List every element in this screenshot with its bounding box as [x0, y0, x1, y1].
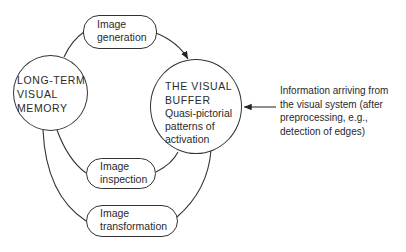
- buffer-title-line-2: BUFFER: [165, 93, 232, 107]
- inspection-line-1: Image: [100, 160, 147, 173]
- image-inspection-label: Image inspection: [100, 160, 147, 186]
- visual-buffer-label: THE VISUAL BUFFER Quasi-pictorial patter…: [165, 79, 232, 146]
- ltm-line-1: LONG-TERM: [17, 73, 85, 87]
- image-generation-label: Image generation: [97, 18, 147, 44]
- note-line-4: detection of edges): [280, 125, 388, 139]
- transformation-line-2: transformation: [100, 220, 167, 233]
- buffer-desc-line-3: activation: [165, 133, 232, 146]
- buffer-title-line-1: THE VISUAL: [165, 79, 232, 93]
- long-term-visual-memory-label: LONG-TERM VISUAL MEMORY: [17, 73, 85, 115]
- transformation-line-1: Image: [100, 207, 167, 220]
- ltm-line-3: MEMORY: [17, 101, 85, 115]
- note-line-3: preprocessing, e.g.,: [280, 111, 388, 125]
- inspection-line-2: inspection: [100, 173, 147, 186]
- buffer-desc-line-1: Quasi-pictorial: [165, 107, 232, 120]
- note-line-2: the visual system (after: [280, 98, 388, 112]
- ltm-line-2: VISUAL: [17, 87, 85, 101]
- image-transformation-label: Image transformation: [100, 207, 167, 233]
- note-line-1: Information arriving from: [280, 84, 388, 98]
- generation-line-1: Image: [97, 18, 147, 31]
- buffer-desc-line-2: patterns of: [165, 120, 232, 133]
- input-note: Information arriving from the visual sys…: [280, 84, 388, 138]
- generation-line-2: generation: [97, 31, 147, 44]
